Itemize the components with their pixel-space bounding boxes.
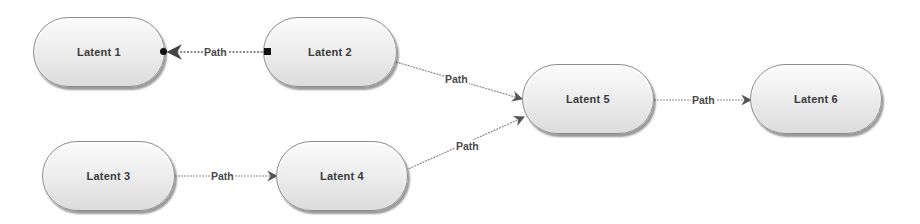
node-label: Latent 6 xyxy=(794,93,838,105)
edge-label-latent2-latent1[interactable]: Path xyxy=(203,46,228,58)
edge-start-handle[interactable] xyxy=(264,48,271,55)
node-latent-1[interactable]: Latent 1 xyxy=(33,17,165,87)
edge-label-latent3-latent4[interactable]: Path xyxy=(210,170,235,182)
node-latent-6[interactable]: Latent 6 xyxy=(750,64,882,134)
edge-end-handle[interactable] xyxy=(160,48,167,55)
diagram-canvas[interactable]: Latent 1 Latent 2 Latent 3 Latent 4 Late… xyxy=(0,0,920,224)
node-latent-2[interactable]: Latent 2 xyxy=(263,17,397,87)
edge-label-latent5-latent6[interactable]: Path xyxy=(691,94,716,106)
node-latent-4[interactable]: Latent 4 xyxy=(276,141,408,211)
node-label: Latent 2 xyxy=(308,46,352,58)
node-latent-3[interactable]: Latent 3 xyxy=(42,141,175,211)
node-label: Latent 3 xyxy=(87,170,131,182)
node-latent-5[interactable]: Latent 5 xyxy=(522,64,654,134)
node-label: Latent 5 xyxy=(566,93,610,105)
edge-label-latent2-latent5[interactable]: Path xyxy=(444,73,469,85)
node-label: Latent 1 xyxy=(77,46,121,58)
node-label: Latent 4 xyxy=(320,170,364,182)
edge-label-latent4-latent5[interactable]: Path xyxy=(455,140,480,152)
